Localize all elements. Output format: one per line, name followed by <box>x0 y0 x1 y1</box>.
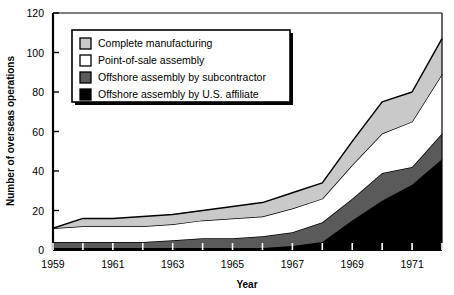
y-axis-title: Number of overseas operations <box>5 56 16 206</box>
legend-swatch-white <box>80 55 91 66</box>
y-tick-label-20: 20 <box>32 205 44 217</box>
y-tick-label-60: 60 <box>32 126 44 138</box>
legend-swatch-dark-gray <box>80 72 91 83</box>
y-tick-label-80: 80 <box>32 86 44 98</box>
chart-figure: 020406080100120 195919611963196519671969… <box>0 0 454 295</box>
legend-label-0: Complete manufacturing <box>98 37 213 49</box>
legend-label-3: Offshore assembly by U.S. affiliate <box>98 88 259 100</box>
legend-label-2: Offshore assembly by subcontractor <box>98 71 266 83</box>
x-tick-label-1963: 1963 <box>161 258 185 270</box>
y-tick-label-120: 120 <box>26 7 44 19</box>
x-tick-label-1971: 1971 <box>400 258 424 270</box>
y-tick-label-0: 0 <box>38 244 44 256</box>
x-tick-label-1969: 1969 <box>341 258 365 270</box>
legend-swatch-black <box>80 89 91 100</box>
legend-label-1: Point-of-sale assembly <box>98 54 205 66</box>
y-tick-label-100: 100 <box>26 47 44 59</box>
x-tick-label-1961: 1961 <box>101 258 125 270</box>
x-tick-label-1965: 1965 <box>221 258 245 270</box>
y-tick-label-40: 40 <box>32 165 44 177</box>
stacked-area-chart: 020406080100120 195919611963196519671969… <box>0 0 454 295</box>
legend-swatch-light-gray <box>80 38 91 49</box>
x-tick-label-1967: 1967 <box>281 258 305 270</box>
x-tick-label-1959: 1959 <box>41 258 65 270</box>
chart-legend: Complete manufacturingPoint-of-sale asse… <box>72 30 293 105</box>
x-axis-title: Year <box>236 279 257 290</box>
